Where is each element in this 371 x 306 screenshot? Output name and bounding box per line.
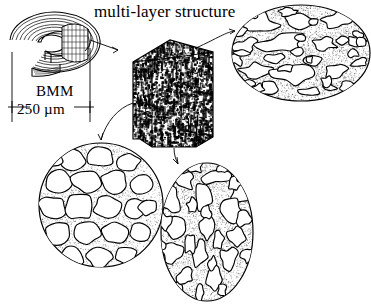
section-top-right [228, 3, 371, 104]
connector-block-to-bottom-center [173, 148, 178, 164]
connector-block-to-top-right [196, 29, 235, 48]
figure-title: multi-layer structure [94, 2, 235, 22]
section-bottom-center [154, 159, 257, 304]
diagram-svg [0, 0, 371, 306]
connector-block-to-bottom-left [98, 103, 133, 140]
figure-canvas: multi-layer structure BMM 250 µm [0, 0, 371, 306]
connector-scroll-to-block [90, 40, 118, 53]
bmm-label: BMM [36, 83, 74, 100]
bmm-scroll [10, 12, 100, 76]
section-bottom-left [38, 142, 165, 285]
scroll-cut-face [58, 20, 92, 64]
multilayer-block [130, 38, 219, 160]
dimension-label: 250 µm [17, 101, 65, 118]
